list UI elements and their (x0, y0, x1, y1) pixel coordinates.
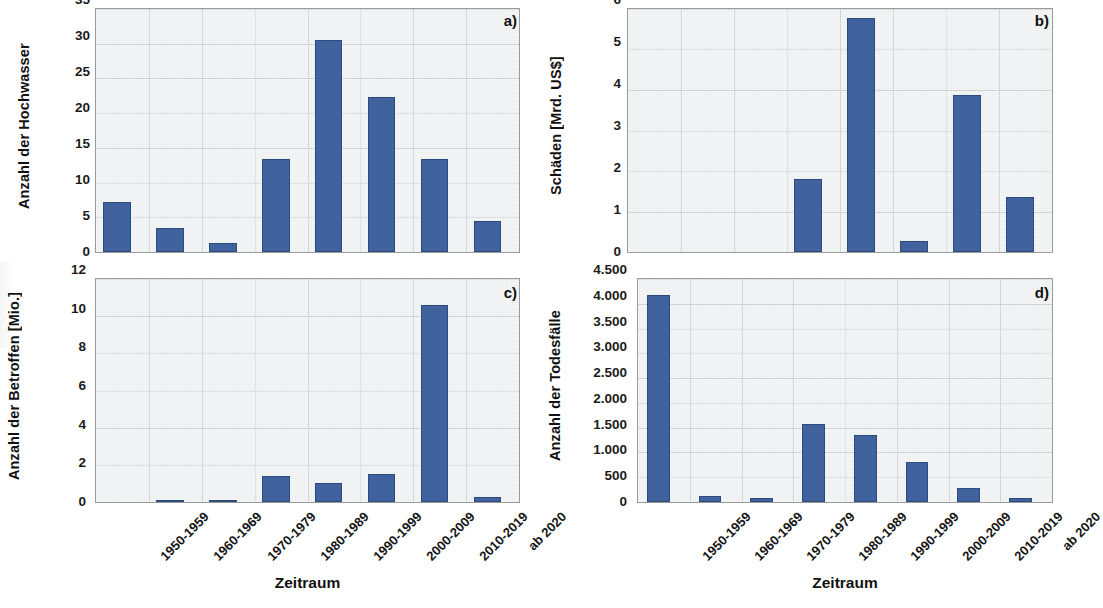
y-tick-label: 12 (34, 263, 86, 277)
y-tick-label: 1.500 (565, 418, 627, 432)
panel-b-tag: b) (1035, 12, 1049, 29)
x-tick-label: 1990-1999 (370, 509, 425, 564)
bar (315, 483, 342, 503)
bar (156, 228, 183, 252)
bar (474, 221, 501, 252)
y-tick-label: 3.500 (565, 315, 627, 329)
y-tick-label: 0 (565, 495, 627, 509)
bar (750, 498, 773, 502)
bar-slot (149, 9, 202, 252)
bar (368, 97, 395, 252)
bar-slot (1000, 279, 1052, 502)
bar (156, 500, 183, 502)
bar-slot (638, 279, 690, 502)
panel-a: Anzahl der Hochwasser 05101520253035 a) (0, 0, 531, 262)
bar-slot (742, 279, 794, 502)
bar-slot (202, 9, 255, 252)
bar (953, 95, 981, 252)
bar-slot (893, 9, 946, 252)
bar (368, 474, 395, 502)
bar-slot (255, 279, 308, 502)
bar-slot (308, 9, 361, 252)
y-tick-label: 20 (38, 101, 90, 115)
y-tick-label: 15 (38, 137, 90, 151)
panel-c-x-axis-labels: 1950-19591960-19691970-19791980-19891990… (95, 505, 520, 575)
y-tick-label: 0 (38, 245, 90, 259)
bar-slot (897, 279, 949, 502)
bar-slot (946, 9, 999, 252)
x-tick-label: 2010-2019 (1011, 509, 1066, 564)
y-tick-label: 6 (569, 0, 621, 7)
bar-slot (690, 279, 742, 502)
x-tick-label: 1980-1989 (855, 509, 910, 564)
bar (957, 488, 980, 502)
y-tick-label: 4 (34, 418, 86, 432)
x-tick-label: 1960-1969 (211, 509, 266, 564)
y-tick-label: 2 (569, 161, 621, 175)
panel-d-x-axis-title: Zeitraum (637, 574, 1053, 592)
panel-b: Schäden [Mrd. US$] 0123456 b) (531, 0, 1063, 262)
panel-d-y-axis-label: Anzahl der Todesfälle (547, 270, 563, 502)
panel-d-x-axis-labels: 1950-19591960-19691970-19791980-19891990… (637, 505, 1053, 575)
bar (699, 496, 722, 502)
bar-slot (96, 9, 149, 252)
y-tick-label: 500 (565, 469, 627, 483)
y-tick-label: 6 (34, 379, 86, 393)
bar (209, 243, 236, 252)
bar (421, 305, 448, 502)
x-tick-label: 2000-2009 (959, 509, 1014, 564)
x-tick-label: 1980-1989 (317, 509, 372, 564)
y-tick-label: 5 (38, 209, 90, 223)
y-tick-label: 25 (38, 65, 90, 79)
bar-slot (845, 279, 897, 502)
bar-slot (360, 9, 413, 252)
panel-c-y-axis-label: Anzahl der Betroffen [Mio.] (6, 270, 22, 502)
bar-slot (734, 9, 787, 252)
bar (421, 159, 448, 252)
panel-c-tag: c) (504, 284, 517, 301)
y-tick-label: 8 (34, 341, 86, 355)
bar (900, 241, 928, 252)
bar-slot (96, 279, 149, 502)
y-tick-label: 4.000 (565, 289, 627, 303)
panel-d-plot-area (637, 278, 1053, 503)
bar-slot (628, 9, 681, 252)
y-tick-label: 10 (38, 173, 90, 187)
y-tick-label: 3 (569, 119, 621, 133)
bar-slot (949, 279, 1001, 502)
panel-b-plot-area (627, 8, 1053, 253)
panel-c-y-axis-ticks: 024681012 (34, 270, 86, 502)
bar (854, 435, 877, 502)
y-tick-label: 2.000 (565, 392, 627, 406)
panel-a-tag: a) (504, 12, 517, 29)
y-tick-label: 0 (34, 495, 86, 509)
x-tick-label: 2000-2009 (423, 509, 478, 564)
panel-a-y-axis-label: Anzahl der Hochwasser (16, 0, 32, 252)
y-tick-label: 30 (38, 29, 90, 43)
bar (209, 500, 236, 502)
y-tick-label: 35 (38, 0, 90, 7)
x-tick-label: ab 2020 (1059, 509, 1103, 553)
panel-d: Anzahl der Todesfälle 05001.0001.5002.00… (531, 262, 1063, 608)
bar-slot (787, 9, 840, 252)
panel-c-x-axis-title: Zeitraum (95, 574, 520, 592)
x-tick-label: 1970-1979 (264, 509, 319, 564)
bar-slot (413, 279, 466, 502)
bar-slot (413, 9, 466, 252)
panel-a-y-axis-ticks: 05101520253035 (38, 0, 90, 252)
panel-b-y-axis-ticks: 0123456 (569, 0, 621, 252)
panel-d-tag: d) (1035, 284, 1049, 301)
bar-slot (360, 279, 413, 502)
bar-slot (681, 9, 734, 252)
bar-slot (466, 9, 519, 252)
y-tick-label: 4.500 (565, 263, 627, 277)
panel-b-bars (628, 9, 1052, 252)
bar (315, 40, 342, 252)
bar (262, 476, 289, 502)
panel-c-plot-area (95, 278, 520, 503)
bar (906, 462, 929, 502)
y-tick-label: 1 (569, 203, 621, 217)
x-tick-label: 2010-2019 (476, 509, 531, 564)
panel-a-bars (96, 9, 519, 252)
panel-b-y-axis-label: Schäden [Mrd. US$] (548, 0, 564, 252)
